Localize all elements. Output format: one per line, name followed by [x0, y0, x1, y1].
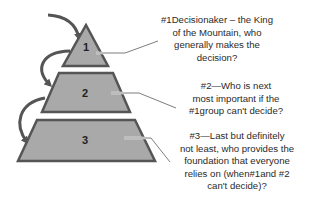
callout-3-line: #3—Last but definitely: [170, 130, 304, 143]
callout-2-line: #1group can't decide?: [172, 105, 300, 118]
tier-1-label: 1: [83, 41, 89, 53]
tier-3-label: 3: [82, 134, 88, 146]
callout-3-line: relies on (when#1and #2: [170, 168, 304, 181]
callout-2-line: most important if the: [172, 93, 300, 106]
callout-1-line: of the Mountain, who: [148, 27, 286, 40]
callout-1-line: generally makes the: [148, 39, 286, 52]
callout-1-line: #1Decisionaker – the King: [148, 14, 286, 27]
callout-tier-2: #2—Who is next most important if the #1g…: [172, 80, 300, 118]
callout-tier-1: #1Decisionaker – the King of the Mountai…: [148, 14, 286, 64]
arrow-into-tier-1: [48, 15, 79, 38]
callout-3-line: foundation that everyone: [170, 155, 304, 168]
callout-3-line: can't decide)?: [170, 180, 304, 193]
tier-2-label: 2: [82, 87, 88, 99]
callout-3-line: not least, who provides the: [170, 143, 304, 156]
callout-1-line: decision?: [148, 52, 286, 65]
callout-tier-3: #3—Last but definitely not least, who pr…: [170, 130, 304, 193]
callout-2-line: #2—Who is next: [172, 80, 300, 93]
